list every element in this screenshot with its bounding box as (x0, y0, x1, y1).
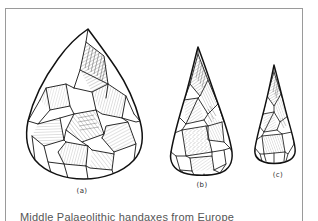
specimen-a-label: (a) (62, 187, 102, 195)
specimen-a-large-cordiform-handaxe (22, 26, 148, 184)
specimen-c-label: (c) (258, 171, 298, 179)
specimen-b-medium-pointed-handaxe (164, 44, 238, 180)
specimen-c-small-pointed-handaxe (250, 62, 302, 166)
figure-caption: Middle Palaeolithic handaxes from Europe (20, 211, 302, 221)
figure-plate-page: (a) (0, 0, 318, 221)
figure-illustration-area: (a) (6, 9, 302, 205)
specimen-b-label: (b) (182, 181, 222, 189)
